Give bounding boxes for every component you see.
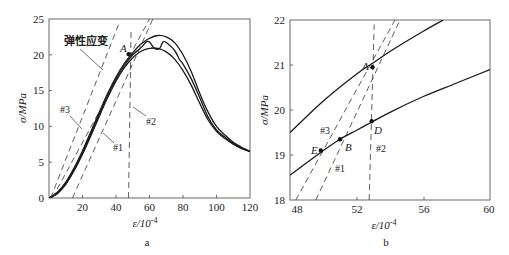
plot-b-xtick: 52 [352, 203, 363, 215]
line-3-label: #3 [60, 104, 70, 115]
plot-b-frame [290, 20, 490, 200]
plot-a-ytick: 10 [33, 120, 45, 132]
plot-b-caption: b [383, 236, 389, 248]
point-e-label: E [310, 144, 318, 156]
reference-line [369, 25, 374, 201]
plot-b-ytick: 22 [274, 14, 285, 26]
plot-b-points [319, 65, 375, 153]
plot-a-points [126, 52, 130, 56]
line-2-label-b: #2 [376, 143, 386, 154]
plot-a-xtick: 40 [111, 201, 123, 213]
plot-a-x-label: ε/10-4 [132, 216, 157, 229]
data-point-marker [319, 148, 323, 152]
plot-b-ytick: 18 [274, 194, 286, 206]
plot-a-ytick: 0 [39, 192, 45, 204]
series-line [290, 20, 443, 133]
elastic-strain-leader [80, 49, 103, 70]
line-1-leader [103, 133, 114, 143]
plot-a-caption: a [145, 236, 150, 248]
plot-a-y-label: σ/MPa [16, 93, 28, 123]
plot-b-ytick: 21 [274, 59, 285, 71]
series-line [290, 70, 490, 176]
plot-b-ytick: 19 [274, 149, 286, 161]
plot-a: 0 5 10 15 20 25 20 40 60 80 100 120 σ/MP… [16, 13, 259, 248]
plot-b-ytick: 20 [274, 104, 286, 116]
line-2-leader [133, 107, 146, 116]
point-b-label: B [345, 141, 352, 153]
plot-b-xtick: 60 [484, 203, 496, 215]
plot-b-xtick: 56 [419, 203, 431, 215]
point-d-label: D [373, 124, 382, 136]
figure: 0 5 10 15 20 25 20 40 60 80 100 120 σ/MP… [0, 0, 509, 255]
plot-a-xtick: 120 [242, 201, 259, 213]
plot-b: 18 19 20 21 22 48 52 56 60 σ/MPa ε/10-4 … [258, 14, 495, 248]
plot-a-xtick: 20 [77, 201, 89, 213]
plot-a-ytick: 20 [33, 49, 45, 61]
plot-a-ytick: 25 [33, 13, 45, 25]
plot-a-ytick: 5 [39, 156, 45, 168]
data-point-marker [370, 65, 374, 69]
plot-a-ytick: 15 [33, 84, 45, 96]
plot-b-y-label: σ/MPa [258, 95, 270, 125]
data-point-marker [126, 52, 130, 56]
plot-a-xtick: 80 [178, 201, 190, 213]
point-a-label-b: A [361, 60, 369, 72]
plot-a-xtick: 60 [144, 201, 156, 213]
line-2-label: #2 [146, 116, 156, 127]
point-a-label: A [119, 42, 127, 54]
line-3-label-b: #3 [320, 125, 330, 136]
plot-a-xtick: 100 [208, 201, 225, 213]
line-1-label: #1 [113, 142, 123, 153]
plot-b-reference-lines [296, 20, 400, 200]
data-point-marker [338, 137, 342, 141]
plot-b-xtick: 48 [292, 203, 304, 215]
reference-line [316, 20, 400, 200]
data-point-marker [369, 119, 373, 123]
plot-b-x-label: ε/10-4 [371, 218, 396, 231]
line-1-label-b: #1 [335, 163, 345, 174]
reference-line [296, 20, 395, 200]
elastic-strain-label: 弹性应变 [64, 34, 108, 47]
